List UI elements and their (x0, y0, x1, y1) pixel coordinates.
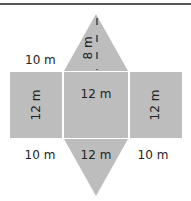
top-triangle (64, 14, 128, 71)
label-slant-height: 8 m (81, 36, 95, 59)
label-left-rect: 12 m (29, 90, 43, 121)
label-bottom-right: 10 m (138, 148, 169, 162)
pyramid-net-diagram: 10 m 8 m 12 m 12 m 12 m 10 m 12 m 10 m (0, 0, 191, 201)
label-bottom-left: 10 m (25, 148, 56, 162)
label-center-rect: 12 m (81, 87, 112, 101)
label-top-left: 10 m (25, 53, 56, 67)
center-rectangle (64, 72, 128, 138)
label-right-rect: 12 m (148, 90, 162, 121)
label-bottom-center: 12 m (81, 148, 112, 162)
